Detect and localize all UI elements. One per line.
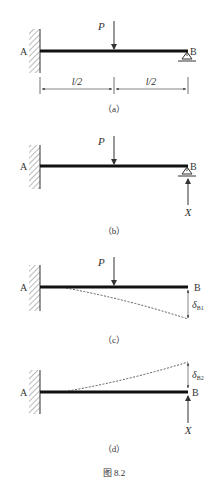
- fixed-support-wall: [29, 287, 40, 311]
- fixed-support-wall: [29, 29, 40, 73]
- reaction-label: X: [184, 424, 193, 436]
- deflected-shape: [66, 288, 188, 319]
- beam-diagram-figure: A B P l/2 l/2 （a） A B P X （b）: [0, 0, 220, 497]
- load-label: P: [97, 135, 105, 147]
- point-a-label: A: [20, 387, 28, 398]
- load-label: P: [97, 256, 105, 268]
- point-b-label: B: [192, 387, 199, 398]
- figure-caption: 图 8.2: [103, 468, 126, 478]
- deflection-label: δB2: [192, 369, 204, 381]
- panel-label: （b）: [103, 226, 126, 236]
- point-a-label: A: [20, 282, 28, 293]
- panel-b: A B P X （b）: [20, 135, 197, 236]
- deflection-label: δB1: [192, 299, 204, 311]
- point-a-label: A: [20, 161, 28, 172]
- fixed-support-wall: [29, 145, 40, 189]
- fixed-support-wall: [29, 370, 40, 414]
- deflected-shape: [68, 362, 188, 391]
- dim-right-label: l/2: [146, 76, 157, 87]
- panel-d: A B δB2 X （d）: [20, 362, 204, 454]
- panel-label: （c）: [103, 335, 125, 345]
- point-b-label: B: [190, 46, 197, 57]
- load-label: P: [97, 20, 105, 32]
- point-a-label: A: [20, 46, 28, 57]
- point-b-label: B: [194, 282, 201, 293]
- panel-label: （d）: [103, 444, 126, 454]
- reaction-label: X: [184, 206, 193, 218]
- panel-label: （a）: [103, 104, 125, 114]
- panel-c: A B P δB1 （c）: [20, 256, 204, 345]
- dim-left-label: l/2: [72, 76, 83, 87]
- point-b-label: B: [190, 161, 197, 172]
- panel-a: A B P l/2 l/2 （a）: [20, 20, 197, 114]
